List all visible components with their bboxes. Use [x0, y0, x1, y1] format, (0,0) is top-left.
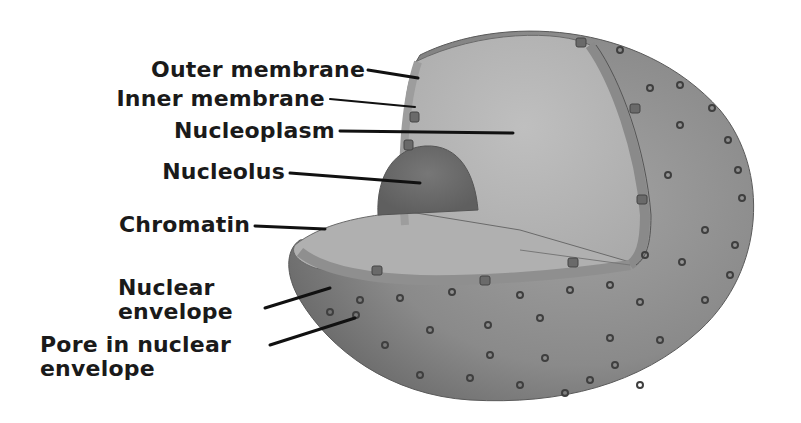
label-nucleolus: Nucleolus — [115, 160, 285, 184]
label-nucleoplasm: Nucleoplasm — [120, 119, 335, 143]
label-chromatin: Chromatin — [80, 213, 250, 237]
label-nuclear-envelope-line1: Nuclear — [118, 276, 233, 300]
label-pore-in-nuclear-envelope: Pore in nuclear envelope — [40, 333, 231, 381]
label-nuclear-envelope: Nuclear envelope — [118, 276, 233, 324]
label-outer-membrane: Outer membrane — [105, 58, 365, 82]
label-nuclear-envelope-line2: envelope — [118, 300, 233, 324]
nucleus-diagram: Outer membrane Inner membrane Nucleoplas… — [0, 0, 801, 423]
label-pore-line2: envelope — [40, 357, 231, 381]
label-pore-line1: Pore in nuclear — [40, 333, 231, 357]
label-inner-membrane: Inner membrane — [60, 87, 325, 111]
